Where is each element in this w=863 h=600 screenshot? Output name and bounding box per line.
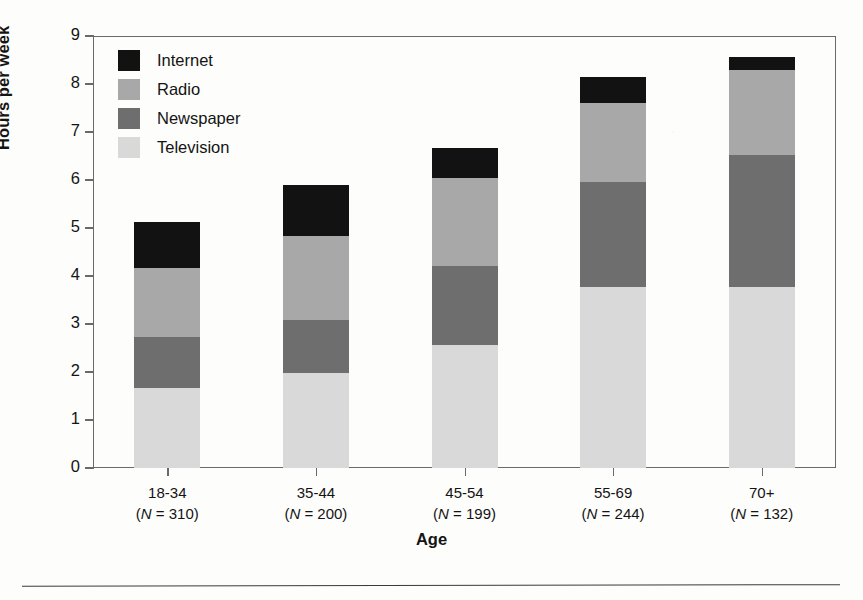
bar-segment-radio-35-44: [283, 236, 349, 320]
y-axis-title: Hours per week: [0, 0, 13, 150]
y-tick-label: 5: [56, 217, 80, 236]
legend-label: Radio: [157, 80, 200, 99]
y-tick-label: 0: [56, 457, 80, 476]
x-category-label-70+: 70+(N = 132): [682, 482, 842, 524]
bar-segment-television-18-34: [134, 388, 200, 468]
page-divider-rule: [22, 584, 840, 587]
y-tick-label: 2: [56, 361, 80, 380]
y-tick-label: 9: [56, 25, 80, 44]
stacked-bar-chart-figure: Hours per week 9876543210 18-34(N = 310)…: [0, 0, 863, 600]
legend-item-internet: Internet: [118, 46, 240, 75]
bar-segment-internet-35-44: [283, 185, 349, 236]
x-category-range: 55-69: [533, 482, 693, 503]
bar-segment-newspaper-45-54: [432, 266, 498, 345]
legend-item-newspaper: Newspaper: [118, 104, 240, 133]
x-tick-mark-55-69: [613, 468, 614, 476]
x-category-range: 45-54: [385, 482, 545, 503]
x-tick-mark-18-34: [167, 468, 168, 476]
y-tick-label: 8: [56, 73, 80, 92]
bar-segment-radio-45-54: [432, 178, 498, 266]
bar-55-69: [580, 36, 646, 468]
x-category-sample-size: (N = 244): [533, 503, 693, 524]
x-category-sample-size: (N = 132): [682, 503, 842, 524]
x-category-range: 18-34: [87, 482, 247, 503]
legend-item-radio: Radio: [118, 75, 240, 104]
x-category-label-18-34: 18-34(N = 310): [87, 482, 247, 524]
bar-segment-television-45-54: [432, 345, 498, 468]
legend-label: Newspaper: [157, 109, 240, 128]
x-tick-mark-45-54: [465, 468, 466, 476]
x-tick-mark-70+: [762, 468, 763, 476]
x-category-label-35-44: 35-44(N = 200): [236, 482, 396, 524]
x-category-range: 70+: [682, 482, 842, 503]
legend-swatch-television-icon: [118, 137, 140, 158]
bar-45-54: [432, 36, 498, 468]
bar-segment-television-35-44: [283, 373, 349, 468]
x-category-label-45-54: 45-54(N = 199): [385, 482, 545, 524]
bar-segment-internet-70+: [729, 57, 795, 70]
legend-swatch-newspaper-icon: [118, 108, 140, 129]
x-axis-title: Age: [0, 530, 863, 549]
x-category-range: 35-44: [236, 482, 396, 503]
bar-segment-television-55-69: [580, 287, 646, 468]
legend-label: Television: [157, 138, 229, 157]
y-tick-label: 1: [56, 409, 80, 428]
y-tick-label: 4: [56, 265, 80, 284]
bar-segment-television-70+: [729, 287, 795, 468]
bar-segment-radio-18-34: [134, 268, 200, 337]
bar-segment-internet-45-54: [432, 148, 498, 178]
bar-segment-newspaper-18-34: [134, 337, 200, 388]
bar-segment-newspaper-55-69: [580, 182, 646, 287]
legend-item-television: Television: [118, 133, 240, 162]
x-category-label-55-69: 55-69(N = 244): [533, 482, 693, 524]
x-tick-mark-35-44: [316, 468, 317, 476]
bar-segment-internet-55-69: [580, 77, 646, 103]
legend-swatch-internet-icon: [118, 50, 140, 71]
bar-segment-internet-18-34: [134, 222, 200, 268]
bar-segment-newspaper-70+: [729, 155, 795, 287]
bar-segment-radio-70+: [729, 70, 795, 155]
bar-70+: [729, 36, 795, 468]
x-category-sample-size: (N = 310): [87, 503, 247, 524]
bar-35-44: [283, 36, 349, 468]
bar-segment-newspaper-35-44: [283, 320, 349, 373]
legend-label: Internet: [157, 51, 213, 70]
x-category-sample-size: (N = 199): [385, 503, 545, 524]
bar-segment-radio-55-69: [580, 103, 646, 182]
chart-legend: InternetRadioNewspaperTelevision: [118, 46, 240, 162]
y-tick-label: 7: [56, 121, 80, 140]
x-category-sample-size: (N = 200): [236, 503, 396, 524]
legend-swatch-radio-icon: [118, 79, 140, 100]
y-tick-label: 6: [56, 169, 80, 188]
y-tick-label: 3: [56, 313, 80, 332]
